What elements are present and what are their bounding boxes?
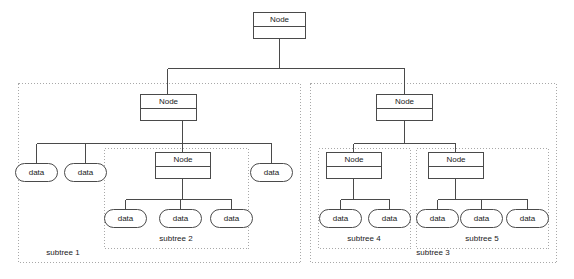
data-leaf-8-label: data <box>430 214 446 223</box>
data-leaf-9[interactable]: data <box>461 210 503 228</box>
node-subtree5-root-label: Node <box>446 155 466 164</box>
data-leaf-2[interactable]: data <box>251 164 293 182</box>
data-leaf-3-label: data <box>118 214 134 223</box>
node-root-label: Node <box>270 15 290 24</box>
data-leaf-7[interactable]: data <box>369 210 411 228</box>
node-subtree4-root-label: Node <box>344 155 364 164</box>
data-leaf-9-label: data <box>474 214 490 223</box>
data-leaf-4[interactable]: data <box>160 210 202 228</box>
node-subtree3-root-label: Node <box>395 97 415 106</box>
data-leaf-5[interactable]: data <box>211 210 253 228</box>
data-leaf-4-label: data <box>173 214 189 223</box>
data-leaf-7-label: data <box>382 214 398 223</box>
node-subtree5-root[interactable]: Node <box>429 153 484 179</box>
subtree-label-subtree-1: subtree 1 <box>46 248 80 257</box>
data-leaf-10-label: data <box>520 214 536 223</box>
data-leaf-0-label: data <box>29 168 45 177</box>
subtree-label-subtree-2: subtree 2 <box>159 234 193 243</box>
node-subtree2-root-label: Node <box>173 155 193 164</box>
data-leaf-6-label: data <box>333 214 349 223</box>
data-leaf-5-label: data <box>224 214 240 223</box>
node-subtree1-root[interactable]: Node <box>141 95 197 121</box>
tree-edges <box>37 38 528 209</box>
tree-diagram-svg: Node Node Node Node Node <box>0 0 574 279</box>
node-subtree2-root[interactable]: Node <box>156 153 211 179</box>
subtree-label-subtree-3: subtree 3 <box>416 248 450 257</box>
data-leaf-3[interactable]: data <box>105 210 147 228</box>
node-root[interactable]: Node <box>254 13 306 39</box>
data-leaf-2-label: data <box>264 168 280 177</box>
node-subtree1-root-label: Node <box>159 97 179 106</box>
data-leaf-1[interactable]: data <box>65 164 107 182</box>
node-subtree4-root[interactable]: Node <box>327 153 382 179</box>
tree-diagram-canvas: Node Node Node Node Node <box>0 0 574 279</box>
data-leaf-1-label: data <box>78 168 94 177</box>
data-leaf-8[interactable]: data <box>417 210 459 228</box>
node-subtree3-root[interactable]: Node <box>377 95 433 121</box>
data-leaf-10[interactable]: data <box>507 210 549 228</box>
data-leaf-6[interactable]: data <box>320 210 362 228</box>
data-leaf-0[interactable]: data <box>16 164 58 182</box>
subtree-label-subtree-4: subtree 4 <box>347 234 381 243</box>
subtree-label-subtree-5: subtree 5 <box>465 234 499 243</box>
